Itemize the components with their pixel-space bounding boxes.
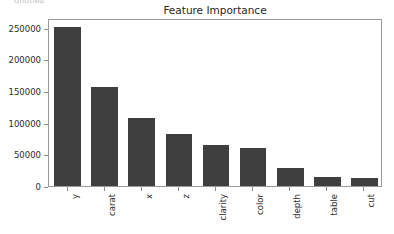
y-tick-label: 200000 xyxy=(0,56,41,64)
bar xyxy=(314,177,341,186)
x-tick-label: x xyxy=(145,194,154,199)
x-tick-mark xyxy=(67,187,68,191)
bar xyxy=(91,87,118,186)
bar xyxy=(351,178,378,186)
x-tick-label: carat xyxy=(108,194,117,216)
x-tick-mark xyxy=(104,187,105,191)
chart-title: Feature Importance xyxy=(48,4,382,17)
y-tick-mark xyxy=(44,92,48,93)
x-tick-mark xyxy=(178,187,179,191)
bar xyxy=(54,27,81,186)
bar xyxy=(166,134,193,186)
y-tick-mark xyxy=(44,124,48,125)
x-tick-label: depth xyxy=(293,194,302,219)
y-tick-mark xyxy=(44,155,48,156)
x-tick-label: color xyxy=(256,194,265,215)
bar-series xyxy=(49,20,381,186)
y-tick-mark xyxy=(44,187,48,188)
bar xyxy=(240,148,267,186)
x-tick-label: y xyxy=(71,194,80,199)
clipped-top-text: Untitled xyxy=(14,0,44,3)
bar xyxy=(203,145,230,186)
x-tick-mark xyxy=(326,187,327,191)
x-tick-label: z xyxy=(182,194,191,198)
x-tick-mark xyxy=(215,187,216,191)
y-tick-label: 150000 xyxy=(0,88,41,96)
x-tick-label: clarity xyxy=(219,194,228,220)
x-tick-mark xyxy=(363,187,364,191)
y-tick-mark xyxy=(44,60,48,61)
x-tick-mark xyxy=(252,187,253,191)
x-tick-mark xyxy=(141,187,142,191)
x-tick-label: table xyxy=(330,194,339,216)
y-tick-label: 50000 xyxy=(0,151,41,159)
y-tick-label: 0 xyxy=(0,183,41,191)
plot-area xyxy=(48,19,382,187)
bar xyxy=(128,118,155,186)
y-tick-mark xyxy=(44,29,48,30)
x-tick-mark xyxy=(289,187,290,191)
y-tick-label: 250000 xyxy=(0,25,41,33)
y-tick-label: 100000 xyxy=(0,120,41,128)
chart-figure: Untitled Feature Importance 050000100000… xyxy=(0,0,394,234)
x-tick-label: cut xyxy=(367,194,376,207)
bar xyxy=(277,168,304,186)
